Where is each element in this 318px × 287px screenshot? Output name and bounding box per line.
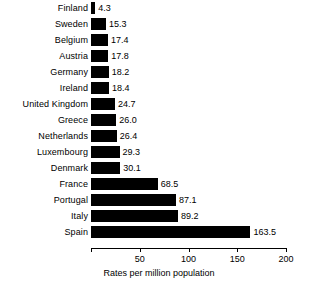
bar-row: Finland4.3 — [0, 0, 318, 16]
bar-track: 17.4 — [91, 32, 318, 48]
category-label: Germany — [0, 64, 88, 80]
bar — [91, 18, 106, 30]
bar-value-label: 15.3 — [106, 16, 127, 32]
bar-value-label: 87.1 — [176, 192, 197, 208]
bar-row: Ireland18.4 — [0, 80, 318, 96]
bar-track: 89.2 — [91, 208, 318, 224]
bar-row: France68.5 — [0, 176, 318, 192]
bar-row: Austria17.8 — [0, 48, 318, 64]
category-label: Italy — [0, 208, 88, 224]
bar-track: 15.3 — [91, 16, 318, 32]
category-label: Denmark — [0, 160, 88, 176]
plot-area: Finland4.3Sweden15.3Belgium17.4Austria17… — [0, 0, 318, 248]
bar-track: 163.5 — [91, 224, 318, 240]
bar-row: Luxembourg29.3 — [0, 144, 318, 160]
bar-track: 68.5 — [91, 176, 318, 192]
x-tick-mark — [286, 248, 287, 252]
category-label: Finland — [0, 0, 88, 16]
bar — [91, 178, 158, 190]
bar-value-label: 89.2 — [178, 208, 199, 224]
bar — [91, 66, 109, 78]
bar — [91, 50, 108, 62]
bar-row: Denmark30.1 — [0, 160, 318, 176]
bar-value-label: 4.3 — [95, 0, 111, 16]
bar-value-label: 163.5 — [250, 224, 276, 240]
bar-track: 18.4 — [91, 80, 318, 96]
bar-track: 24.7 — [91, 96, 318, 112]
bar-value-label: 18.4 — [109, 80, 130, 96]
bar — [91, 226, 250, 238]
bar-row: Greece26.0 — [0, 112, 318, 128]
bar-row: Sweden15.3 — [0, 16, 318, 32]
bar — [91, 114, 116, 126]
bar — [91, 210, 178, 222]
bar — [91, 130, 117, 142]
bar-row: Portugal87.1 — [0, 192, 318, 208]
x-tick-label: 50 — [135, 253, 145, 265]
category-label: United Kingdom — [0, 96, 88, 112]
bar — [91, 146, 120, 158]
x-tick-label: 200 — [278, 253, 293, 265]
bar-value-label: 18.2 — [109, 64, 130, 80]
bar-track: 26.4 — [91, 128, 318, 144]
category-label: Austria — [0, 48, 88, 64]
category-label: Belgium — [0, 32, 88, 48]
bar-row: Germany18.2 — [0, 64, 318, 80]
category-label: Sweden — [0, 16, 88, 32]
category-label: Ireland — [0, 80, 88, 96]
bar-row: Belgium17.4 — [0, 32, 318, 48]
bar-track: 30.1 — [91, 160, 318, 176]
bar-row: Spain163.5 — [0, 224, 318, 240]
bar-value-label: 29.3 — [120, 144, 141, 160]
bar-row: Netherlands26.4 — [0, 128, 318, 144]
x-axis-title: Rates per million population — [0, 268, 318, 278]
category-label: France — [0, 176, 88, 192]
x-tick-mark — [91, 248, 92, 252]
bar-track: 18.2 — [91, 64, 318, 80]
x-tick-mark — [189, 248, 190, 252]
category-label: Portugal — [0, 192, 88, 208]
bar-row: United Kingdom24.7 — [0, 96, 318, 112]
bar — [91, 34, 108, 46]
category-label: Greece — [0, 112, 88, 128]
bar-value-label: 68.5 — [158, 176, 179, 192]
bar — [91, 194, 176, 206]
bar-value-label: 17.8 — [108, 48, 129, 64]
category-label: Luxembourg — [0, 144, 88, 160]
bar-value-label: 26.0 — [116, 112, 137, 128]
bar-track: 87.1 — [91, 192, 318, 208]
bar-value-label: 17.4 — [108, 32, 129, 48]
bar-track: 4.3 — [91, 0, 318, 16]
bar-value-label: 30.1 — [120, 160, 141, 176]
x-tick-label: 150 — [230, 253, 245, 265]
x-tick-mark — [237, 248, 238, 252]
bar-row: Italy89.2 — [0, 208, 318, 224]
x-tick-mark — [140, 248, 141, 252]
bar — [91, 82, 109, 94]
bar-chart: Finland4.3Sweden15.3Belgium17.4Austria17… — [0, 0, 318, 287]
bar-value-label: 26.4 — [117, 128, 138, 144]
bar-value-label: 24.7 — [115, 96, 136, 112]
category-label: Spain — [0, 224, 88, 240]
bar — [91, 98, 115, 110]
bar-track: 29.3 — [91, 144, 318, 160]
bar-track: 26.0 — [91, 112, 318, 128]
bar — [91, 162, 120, 174]
x-tick-label: 100 — [181, 253, 196, 265]
bar-track: 17.8 — [91, 48, 318, 64]
category-label: Netherlands — [0, 128, 88, 144]
